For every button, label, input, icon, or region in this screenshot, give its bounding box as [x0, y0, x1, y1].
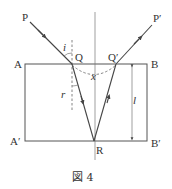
label-p: P: [22, 11, 28, 23]
label-a-prime: A′: [10, 135, 20, 147]
label-p-prime: P′: [153, 12, 162, 24]
label-angle-i: i: [63, 41, 66, 53]
label-r-point: R: [96, 144, 104, 156]
emergent-ray-arrow: [134, 37, 141, 44]
label-a: A: [14, 58, 22, 70]
label-b-prime: B′: [151, 137, 161, 149]
emergent-ray: [116, 25, 152, 64]
reflected-ray-up: [94, 64, 116, 141]
reflected-ray-up-arrow: [107, 96, 109, 103]
label-separation-x: x: [90, 70, 96, 82]
refraction-diagram: P P′ Q Q′ A B A′ B′ R i r x l 図 4: [0, 0, 172, 189]
label-thickness-l: l: [133, 94, 136, 106]
label-b: B: [151, 58, 158, 70]
figure-caption: 図 4: [72, 171, 94, 184]
label-q: Q: [75, 51, 83, 63]
incident-ray-arrow: [38, 30, 45, 37]
label-q-prime: Q′: [108, 51, 118, 63]
label-angle-r: r: [61, 88, 66, 100]
angle-arc-i: [64, 53, 72, 56]
angle-arc-r: [72, 85, 78, 86]
glass-slab: [25, 64, 147, 141]
